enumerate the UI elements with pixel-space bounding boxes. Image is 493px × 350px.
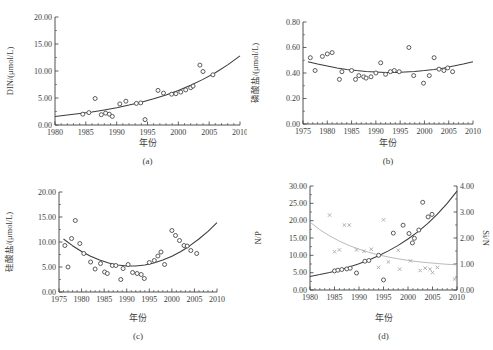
y-tick-label: 10.00: [34, 67, 52, 76]
data-point-circle: [93, 267, 97, 271]
data-point-circle: [337, 77, 341, 81]
data-point-circle: [446, 66, 450, 70]
data-point-circle: [391, 231, 395, 235]
fit-curve-Si/N: [310, 222, 457, 265]
y-tick-label: 20.00: [34, 13, 52, 22]
data-point-circle: [152, 259, 156, 263]
data-point-circle: [432, 56, 436, 60]
data-point-circle: [355, 271, 359, 275]
y2-tick-label: 1.00: [460, 260, 474, 269]
data-point-circle: [178, 239, 182, 243]
data-point-circle: [184, 88, 188, 92]
subplot-caption: (b): [383, 156, 394, 166]
data-point-circle: [374, 71, 378, 75]
x-tick-label: 2005: [201, 128, 217, 137]
data-point-circle: [313, 69, 317, 73]
y2-tick-label: 3.00: [460, 208, 474, 217]
data-point-circle: [156, 88, 160, 92]
data-point-circle: [135, 272, 139, 276]
data-point-circle: [174, 234, 178, 238]
y-tick-label: 0.40: [286, 69, 300, 78]
data-point-circle: [105, 272, 109, 276]
x-axis-label: 年份: [375, 312, 393, 323]
y-tick-label: 15.00: [34, 40, 52, 49]
data-point-circle: [191, 84, 195, 88]
data-point-circle: [357, 74, 361, 78]
y2-tick-label: 2.00: [460, 234, 474, 243]
data-point-circle: [131, 271, 135, 275]
data-point-circle: [78, 242, 82, 246]
data-point-x: [428, 268, 431, 271]
y-tick-label: 5.00: [38, 94, 52, 103]
y-tick-label: 0.80: [286, 18, 300, 27]
data-point-circle: [320, 54, 324, 58]
data-point-circle: [195, 252, 199, 256]
y-axis-label: 硅酸盐/(μmol/L): [4, 212, 14, 273]
y-tick-label: 15.00: [38, 213, 56, 222]
x-tick-label: 1995: [140, 128, 156, 137]
x-tick-label: 2005: [425, 293, 441, 302]
x-tick-label: 2010: [209, 295, 225, 304]
y-tick-label: 0.00: [38, 121, 52, 130]
x-tick-label: 2010: [232, 128, 247, 137]
y-tick-label: 10.00: [38, 238, 56, 247]
data-point-circle: [397, 70, 401, 74]
data-point-x: [387, 260, 390, 263]
data-point-circle: [93, 97, 97, 101]
subplot-caption: (c): [133, 331, 143, 341]
data-point-circle: [348, 266, 352, 270]
data-point-circle: [170, 92, 174, 96]
data-point-x: [377, 266, 380, 269]
figure-panel: 19801985199019952000200520100.005.0010.0…: [0, 0, 493, 350]
data-point-circle: [363, 259, 367, 263]
y-tick-label: 25.00: [289, 199, 307, 208]
data-point-circle: [89, 260, 93, 264]
data-point-circle: [110, 114, 114, 118]
data-point-circle: [119, 278, 123, 282]
data-point-circle: [422, 81, 426, 85]
y-axis-label: DIN/(μmol/L): [5, 47, 15, 96]
x-tick-label: 2000: [170, 128, 186, 137]
data-point-circle: [330, 51, 334, 55]
x-tick-label: 1995: [376, 293, 392, 302]
data-point-circle: [442, 69, 446, 73]
x-tick-label: 1980: [319, 127, 335, 136]
data-point-circle: [201, 70, 205, 74]
x-tick-label: 2005: [186, 295, 202, 304]
data-point-circle: [426, 215, 430, 219]
x-axis-label: 年份: [139, 137, 157, 148]
data-point-circle: [379, 61, 383, 65]
subplot-b-phosphate: 197519801985199019952000200520100.000.20…: [246, 0, 493, 175]
data-point-circle: [159, 250, 163, 254]
y-tick-label: 5.00: [42, 263, 56, 272]
data-point-circle: [377, 253, 381, 257]
data-point-circle: [407, 232, 411, 236]
data-point-circle: [66, 265, 70, 269]
y2-tick-label: 0.00: [460, 286, 474, 295]
data-point-circle: [382, 278, 386, 282]
subplot-caption: (d): [378, 331, 389, 341]
y-tick-label: 5.00: [293, 268, 307, 277]
data-point-circle: [174, 92, 178, 96]
data-point-x: [453, 277, 456, 280]
x-axis-label: 年份: [379, 137, 397, 148]
data-point-circle: [185, 244, 189, 248]
y-tick-label: 0.00: [293, 286, 307, 295]
data-point-x: [436, 266, 439, 269]
y-tick-label: 10.00: [289, 251, 307, 260]
subplot-d-np-sin-ratio: 19801985199019952000200520100.005.0010.0…: [246, 175, 493, 350]
x-tick-label: 1995: [141, 295, 157, 304]
y-tick-label: 0.00: [42, 288, 56, 297]
y-tick-label: 15.00: [289, 234, 307, 243]
data-point-x: [423, 266, 426, 269]
x-tick-label: 1990: [351, 293, 367, 302]
data-point-x: [419, 269, 422, 272]
y-axis-label: N/P: [253, 231, 263, 245]
data-point-circle: [63, 244, 67, 248]
data-point-circle: [340, 268, 344, 272]
x-tick-label: 1990: [119, 295, 135, 304]
subplot-c-silicate: 197519801985199019952000200520100.005.00…: [0, 175, 247, 350]
data-point-circle: [143, 118, 147, 122]
y2-axis-label: Si/N: [481, 230, 491, 246]
y-axis-label: 磷酸盐/(μmol/L): [250, 43, 260, 104]
